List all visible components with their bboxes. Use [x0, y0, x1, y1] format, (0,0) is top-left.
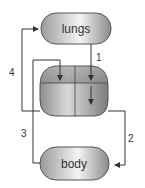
arrow-1-label: 1 — [96, 52, 102, 63]
arrow-4: 4 — [9, 29, 40, 111]
arrow-2-label: 2 — [128, 133, 134, 144]
heart-node — [40, 66, 108, 116]
arrow-3-label: 3 — [21, 128, 27, 139]
body-node: body — [40, 147, 109, 180]
circulation-diagram: lungs body 1 2 3 4 — [0, 0, 145, 188]
arrow-2: 2 — [108, 111, 134, 165]
body-label: body — [61, 157, 87, 171]
lungs-label: lungs — [62, 22, 91, 36]
arrow-4-label: 4 — [9, 67, 15, 78]
lungs-node: lungs — [41, 13, 111, 44]
